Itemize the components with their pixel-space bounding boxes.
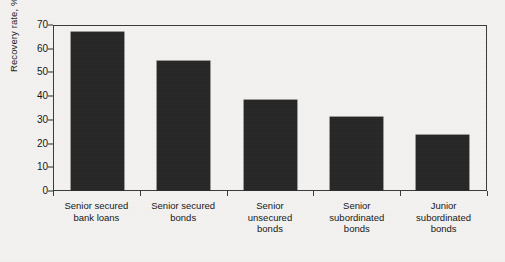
x-axis-category-label-line: Senior secured bbox=[55, 200, 138, 212]
chart-figure: Recovery rate, % 706050403020100 Senior … bbox=[0, 0, 505, 262]
y-axis-tick-label: 30 bbox=[28, 115, 48, 125]
bar-series bbox=[54, 26, 486, 190]
y-axis-tick-mark bbox=[48, 48, 53, 49]
x-axis-category-label-line: bonds bbox=[229, 223, 312, 235]
x-axis-category-label-line: Senior bbox=[315, 200, 398, 212]
x-axis-category-labels: Senior securedbank loansSenior securedbo… bbox=[53, 200, 487, 235]
y-axis-tick-mark bbox=[48, 96, 53, 97]
bar-slot bbox=[227, 26, 313, 190]
y-axis-tick-label: 50 bbox=[28, 67, 48, 77]
y-axis-tick-label: 10 bbox=[28, 162, 48, 172]
x-axis-category-label: Juniorsubordinatedbonds bbox=[400, 200, 487, 235]
x-axis-tick-mark bbox=[53, 191, 54, 196]
y-axis-title: Recovery rate, % bbox=[8, 0, 19, 72]
y-axis-tick-mark bbox=[48, 119, 53, 120]
y-axis-tick-label: 40 bbox=[28, 91, 48, 101]
x-axis-category-label-line: subordinated bbox=[402, 212, 485, 224]
x-axis-tick-mark bbox=[313, 191, 314, 196]
bar bbox=[157, 61, 210, 190]
bar bbox=[416, 135, 469, 190]
x-axis-tick-mark bbox=[400, 191, 401, 196]
x-axis-category-label-line: bonds bbox=[402, 223, 485, 235]
x-axis-tick-mark bbox=[227, 191, 228, 196]
bar bbox=[71, 32, 124, 190]
x-axis-tick-mark bbox=[487, 191, 488, 196]
x-axis-category-label-line: Senior bbox=[229, 200, 312, 212]
x-axis-category-label-line: bonds bbox=[315, 223, 398, 235]
y-axis-tick-mark bbox=[48, 25, 53, 26]
x-axis-category-label-line: unsecured bbox=[229, 212, 312, 224]
bar bbox=[244, 100, 297, 190]
x-axis-category-label: Seniorunsecuredbonds bbox=[227, 200, 314, 235]
y-axis-tick-mark bbox=[48, 143, 53, 144]
x-axis-category-label: Seniorsubordinatedbonds bbox=[313, 200, 400, 235]
x-axis-category-label-line: bonds bbox=[142, 212, 225, 224]
y-axis-tick-label: 60 bbox=[28, 44, 48, 54]
y-axis-tick-label: 0 bbox=[28, 186, 48, 196]
bar-slot bbox=[140, 26, 226, 190]
x-axis-tick-mark bbox=[140, 191, 141, 196]
y-axis-tick-labels: 706050403020100 bbox=[22, 0, 48, 262]
y-axis-tick-label: 70 bbox=[28, 20, 48, 30]
x-axis-category-label-line: bank loans bbox=[55, 212, 138, 224]
bar-slot bbox=[400, 26, 486, 190]
bar-slot bbox=[54, 26, 140, 190]
x-axis-category-label: Senior securedbank loans bbox=[53, 200, 140, 235]
x-axis-category-label-line: Senior secured bbox=[142, 200, 225, 212]
y-axis-tick-mark bbox=[48, 167, 53, 168]
x-axis-category-label-line: Junior bbox=[402, 200, 485, 212]
x-axis-category-label: Senior securedbonds bbox=[140, 200, 227, 235]
y-axis-tick-label: 20 bbox=[28, 139, 48, 149]
x-axis-category-label-line: subordinated bbox=[315, 212, 398, 224]
y-axis-tick-mark bbox=[48, 72, 53, 73]
plot-area bbox=[53, 25, 487, 191]
bar bbox=[330, 117, 383, 191]
bar-slot bbox=[313, 26, 399, 190]
